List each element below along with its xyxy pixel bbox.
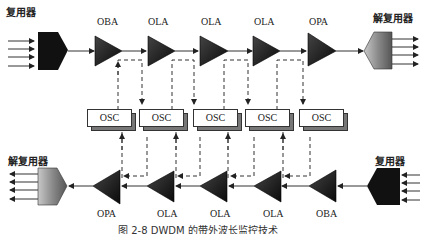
bottom-demultiplexer-label: 解复用器 (8, 153, 48, 168)
top-amp-label-3: OLA (201, 16, 222, 27)
figure-caption: 图 2-8 DWDM 的带外波长监控技术 (118, 222, 278, 234)
osc-box-4: OSC (245, 109, 290, 127)
top-input-arrows (8, 41, 34, 66)
bottom-amplifier-oba-icon (309, 170, 336, 202)
top-amplifier-ola1-icon (148, 36, 175, 66)
bottom-multiplexer-label: 复用器 (375, 153, 405, 168)
bottom-amplifier-ola3-icon (254, 171, 281, 202)
bottom-demultiplexer-icon (38, 168, 67, 205)
top-amp-label-1: OBA (97, 16, 118, 27)
osc-box-3: OSC (193, 109, 238, 127)
top-demultiplexer-icon (364, 32, 392, 69)
osc-label: OSC (87, 109, 132, 127)
bottom-multiplexer-icon (367, 168, 400, 205)
bottom-output-arrows (10, 174, 38, 199)
top-multiplexer-label: 复用器 (6, 4, 36, 19)
top-osc-links (118, 60, 303, 110)
top-amplifier-ola2-icon (200, 36, 228, 66)
top-amp-label-2: OLA (148, 16, 169, 27)
osc-box-2: OSC (139, 109, 184, 127)
osc-label: OSC (193, 109, 238, 127)
osc-label: OSC (245, 109, 290, 127)
top-amplifier-ola3-icon (253, 36, 280, 66)
bottom-amp-label-4: OLA (263, 208, 284, 219)
top-amp-label-5: OPA (309, 16, 328, 27)
bottom-input-arrows (402, 175, 420, 200)
top-output-arrows (392, 39, 418, 64)
top-demultiplexer-label: 解复用器 (373, 10, 413, 25)
osc-label: OSC (139, 109, 184, 127)
osc-label: OSC (299, 109, 344, 127)
bottom-amp-label-5: OBA (316, 208, 337, 219)
osc-box-1: OSC (87, 109, 132, 127)
bottom-osc-links (122, 132, 310, 181)
osc-box-5: OSC (299, 109, 344, 127)
bottom-amplifier-opa-icon (93, 170, 120, 204)
bottom-amplifier-ola1-icon (147, 171, 174, 202)
bottom-amp-label-3: OLA (210, 208, 231, 219)
top-multiplexer-icon (38, 32, 68, 70)
bottom-amplifier-ola2-icon (200, 171, 227, 202)
top-amp-label-4: OLA (254, 16, 275, 27)
bottom-amp-label-2: OLA (157, 208, 178, 219)
top-amplifier-oba-icon (95, 36, 122, 66)
bottom-amp-label-1: OPA (97, 208, 116, 219)
top-amplifier-opa-icon (308, 33, 336, 66)
